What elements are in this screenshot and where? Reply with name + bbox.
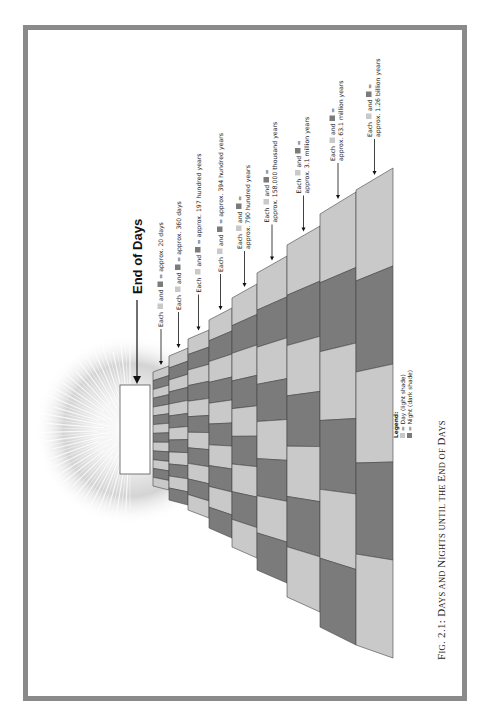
arrow-head bbox=[336, 195, 340, 199]
arrow-head bbox=[302, 228, 306, 232]
day-cell bbox=[232, 464, 257, 497]
caption-part: . 2.1: bbox=[435, 617, 447, 644]
equals-sign: = bbox=[295, 140, 302, 145]
duration-label: = approx. 360 days bbox=[175, 201, 183, 262]
caption-part: D bbox=[435, 437, 447, 445]
and-word: and bbox=[217, 234, 224, 246]
legend: Legend: = Day (light shade) = Night (dar… bbox=[393, 370, 414, 438]
annotation-text: Each and=approx. 158,000 thousand years bbox=[263, 122, 279, 223]
level-annotation: Each and=approx. 3.1 million years bbox=[295, 117, 311, 232]
caption-part: D bbox=[435, 609, 447, 617]
pyramid-column bbox=[356, 168, 393, 658]
each-word: Each bbox=[195, 277, 202, 292]
annotation-text: Each and= approx. 360 days bbox=[175, 201, 183, 310]
annotation-text: Each and= approx. 20 days bbox=[157, 222, 165, 327]
arrow-head bbox=[243, 283, 247, 287]
day-cell bbox=[320, 489, 356, 569]
duration-label: approx. 790 hundred years bbox=[244, 165, 252, 249]
night-swatch bbox=[195, 247, 201, 253]
legend-day-label: = Day (light shade) bbox=[400, 374, 407, 431]
annotation-text: Each and= approx. 394 hundred years bbox=[217, 133, 225, 272]
caption-part: ND OF bbox=[437, 446, 447, 475]
night-cell bbox=[287, 391, 320, 446]
level-annotation: Each and=approx. 63.1 million years bbox=[329, 80, 345, 199]
caption-part: IG bbox=[437, 644, 447, 654]
level-annotation: Each and= approx. 197 hundred years bbox=[195, 153, 203, 330]
duration-label: = approx. 197 hundred years bbox=[195, 153, 203, 244]
and-word: and bbox=[195, 255, 202, 267]
day-cell bbox=[209, 400, 232, 424]
night-cell bbox=[320, 419, 356, 495]
arrow-head bbox=[177, 344, 181, 348]
day-swatch bbox=[217, 249, 223, 255]
pyramid-column bbox=[287, 226, 320, 612]
night-cell bbox=[356, 462, 393, 560]
pyramid-column bbox=[209, 308, 232, 538]
and-word: and bbox=[175, 272, 182, 284]
day-swatch bbox=[366, 114, 372, 120]
night-cell bbox=[153, 414, 169, 425]
day-cell bbox=[188, 432, 209, 449]
each-word: Each bbox=[217, 257, 224, 272]
each-word: Each bbox=[157, 312, 164, 327]
legend-night-swatch bbox=[407, 433, 412, 438]
arrow-head bbox=[270, 257, 274, 261]
end-of-days-title: End of Days bbox=[130, 219, 145, 294]
night-cell bbox=[153, 433, 169, 443]
night-swatch bbox=[217, 227, 223, 233]
night-cell bbox=[257, 459, 287, 502]
night-cell bbox=[257, 379, 287, 422]
annotation-line: Each bbox=[195, 277, 202, 292]
caption-part: AYS AND bbox=[437, 568, 447, 609]
equals-sign: = bbox=[263, 169, 270, 174]
night-swatch bbox=[175, 265, 181, 271]
duration-label: approx. 1.26 billion years bbox=[374, 59, 382, 138]
night-cell bbox=[232, 436, 257, 466]
day-swatch bbox=[295, 170, 301, 176]
each-word: Each bbox=[366, 122, 373, 137]
duration-label: approx. 63.1 million years bbox=[337, 80, 345, 161]
day-cell bbox=[287, 336, 320, 396]
day-cell bbox=[169, 452, 188, 466]
arrow-head bbox=[219, 306, 223, 310]
legend-day-swatch bbox=[400, 433, 405, 438]
day-cell bbox=[188, 398, 209, 416]
pyramid-column bbox=[320, 192, 356, 645]
night-cell bbox=[169, 440, 188, 453]
pyramid-column bbox=[232, 284, 257, 558]
end-of-days-box bbox=[120, 385, 150, 474]
day-swatch bbox=[195, 269, 201, 275]
day-cell bbox=[232, 406, 257, 437]
equals-sign: = bbox=[236, 196, 243, 201]
day-cell bbox=[257, 420, 287, 461]
annotation-text: Each and=approx. 3.1 million years bbox=[295, 117, 311, 194]
night-cell bbox=[209, 423, 232, 446]
night-swatch bbox=[330, 116, 336, 122]
and-word: and bbox=[157, 289, 164, 301]
annotation-line: Each bbox=[217, 257, 224, 272]
pyramid-column bbox=[188, 330, 209, 518]
each-word: Each bbox=[236, 234, 243, 249]
and-word: and bbox=[329, 123, 336, 135]
annotation-line: Each bbox=[236, 234, 243, 249]
level-annotation: Each and=approx. 1.26 billion years bbox=[366, 59, 382, 176]
pyramid-column bbox=[169, 348, 188, 505]
duration-label: approx. 3.1 million years bbox=[303, 117, 311, 194]
and-word: and bbox=[263, 185, 270, 197]
day-swatch bbox=[175, 287, 181, 293]
arrow-head bbox=[197, 327, 201, 331]
night-cell bbox=[232, 375, 257, 408]
annotation-line: Each bbox=[175, 295, 182, 310]
legend-night-label: = Night (dark shade) bbox=[407, 370, 414, 431]
night-swatch bbox=[158, 282, 164, 288]
arrow-head bbox=[373, 171, 377, 175]
pyramid-columns bbox=[153, 168, 393, 658]
caption-part: E bbox=[435, 475, 447, 482]
caption-part: AYS bbox=[437, 420, 447, 437]
day-cell bbox=[356, 168, 393, 281]
day-swatch bbox=[330, 138, 336, 144]
duration-label: = approx. 20 days bbox=[157, 222, 165, 279]
day-cell bbox=[320, 192, 356, 283]
night-cell bbox=[320, 558, 356, 645]
annotation-text: Each and= approx. 197 hundred years bbox=[195, 153, 203, 292]
